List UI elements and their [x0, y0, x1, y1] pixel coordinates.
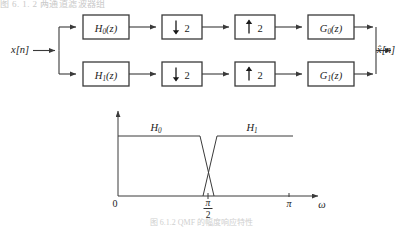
block-decimator-1-label: 2: [184, 70, 189, 81]
block-decimator-0-label: 2: [184, 23, 189, 34]
lower-branch: H1(z) 2 2 G1(z): [83, 62, 373, 86]
block-interpolator-0-label: 2: [257, 23, 262, 34]
curve-h1: [203, 136, 293, 196]
block-decimator-0: [162, 15, 202, 39]
input-splitter: [59, 27, 76, 74]
plot-annotation-h0: H0: [149, 122, 162, 135]
curve-h0: [118, 136, 214, 196]
block-decimator-1: [162, 62, 202, 86]
plot-x-axis-label: ω: [318, 199, 325, 210]
block-interpolator-1: [235, 62, 275, 86]
xtick-label-pi: π: [286, 198, 292, 209]
block-diagram: H0(z) 2 2 G0(z): [33, 15, 391, 86]
output-signal-label: x̂[n]: [377, 44, 395, 55]
filter-bank-figure: H0(z) 2 2 G0(z): [0, 0, 403, 227]
figure-root: 图 6. 1. 2 两通道滤波器组: [0, 0, 403, 227]
frequency-response-plot: H0 H1 0 π 2 π ω: [113, 111, 326, 220]
block-interpolator-1-label: 2: [257, 70, 262, 81]
upper-branch: H0(z) 2 2 G0(z): [83, 15, 373, 39]
cropped-figure-caption: 图 6.1.2 QMF 的幅度响应特性: [0, 218, 403, 227]
plot-annotation-h1: H1: [245, 122, 257, 135]
input-signal-label: x[n]: [11, 44, 29, 55]
block-interpolator-0: [235, 15, 275, 39]
xtick-label-pi-over-2: π 2: [204, 198, 213, 220]
xtick-label-pi-over-2-numerator: π: [206, 198, 211, 208]
xtick-label-zero: 0: [113, 198, 118, 209]
